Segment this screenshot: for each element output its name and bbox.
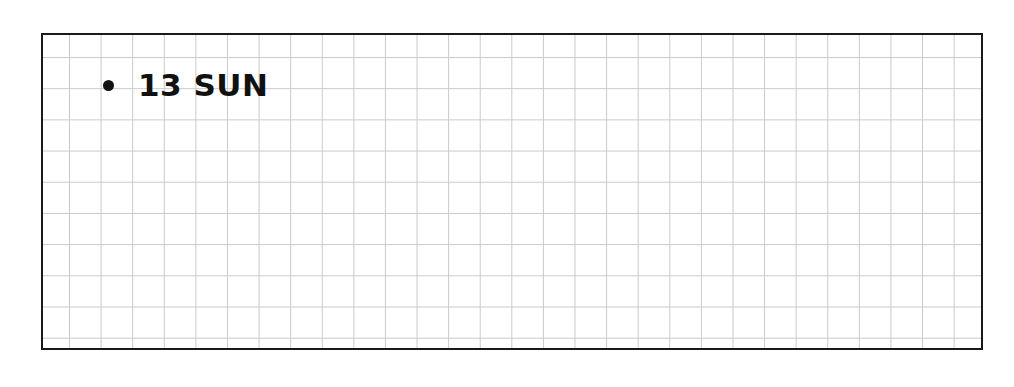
date-label: 13 SUN [138,67,268,103]
grid-planner-box: 13 SUN [41,33,983,350]
date-entry: 13 SUN [103,67,268,103]
bullet-icon [103,80,114,91]
